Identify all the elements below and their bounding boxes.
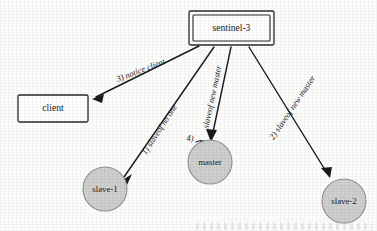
node-group: sentinel-3 client slave-1 master slave-2 bbox=[18, 11, 366, 223]
edge-label-slaveof-no-one: 1) slaveof no one bbox=[140, 103, 179, 156]
diagram-svg: 3) notice client 1) slaveof no one slave… bbox=[0, 0, 377, 231]
node-master[interactable]: master bbox=[188, 140, 232, 184]
diagram-canvas: 3) notice client 1) slaveof no one slave… bbox=[0, 0, 377, 231]
node-slave-1[interactable]: slave-1 bbox=[83, 167, 127, 211]
node-client-label: client bbox=[42, 102, 64, 113]
node-client[interactable]: client bbox=[18, 95, 88, 122]
edge-notice-client[interactable] bbox=[92, 46, 199, 103]
page-bottom-artifact bbox=[196, 223, 372, 230]
edge-label-notice-client: 3) notice client bbox=[114, 56, 167, 84]
node-slave-2-label: slave-2 bbox=[331, 196, 356, 206]
node-master-label: master bbox=[198, 157, 222, 167]
node-sentinel-3-label: sentinel-3 bbox=[213, 22, 251, 33]
master-step-marker-label: 4) bbox=[187, 134, 194, 143]
node-slave-1-label: slave-1 bbox=[92, 184, 117, 194]
edge-label-slaveof-new-master-to-slave2: 2) slaveof new master bbox=[267, 73, 318, 141]
node-slave-2[interactable]: slave-2 bbox=[322, 179, 366, 223]
node-sentinel-3[interactable]: sentinel-3 bbox=[189, 11, 274, 45]
edge-slaveof-new-master-to-slave2-arrowhead bbox=[321, 167, 332, 178]
